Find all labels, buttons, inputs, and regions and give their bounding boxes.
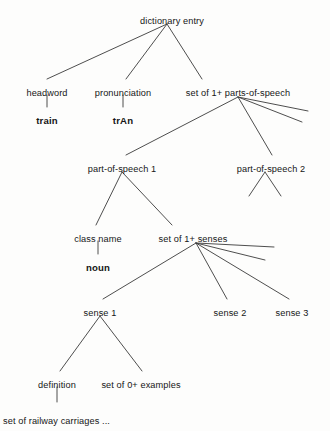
- tree-node-pronunciation: pronunciation: [95, 88, 151, 99]
- tree-diagram: dictionary entryheadwordtrainpronunciati…: [0, 0, 330, 431]
- tree-edge-sense1-to-examples: [100, 316, 142, 371]
- tree-edge-sense1-to-definition: [60, 316, 100, 371]
- tree-node-part-of-speech-1: part-of-speech 1: [88, 164, 157, 175]
- tree-node-set-examples: set of 0+ examples: [101, 380, 180, 391]
- tree-edge-senses-stub-b: [196, 243, 265, 260]
- tree-edge-senses-to-sense1: [103, 243, 196, 299]
- tree-node-class-name-value: noun: [86, 262, 110, 273]
- tree-node-dictionary-entry: dictionary entry: [140, 16, 204, 27]
- tree-edge-entry-to-pronunciation: [126, 24, 167, 79]
- tree-node-definition-value: set of railway carriages ...: [3, 416, 110, 427]
- tree-edge-pos2-branch-left: [249, 172, 265, 196]
- tree-node-class-name: class name: [74, 234, 121, 245]
- tree-edge-senses-to-sense3: [196, 243, 289, 299]
- tree-node-set-senses: set of 1+ senses: [159, 234, 228, 245]
- tree-edge-parts-stub-a: [238, 97, 308, 111]
- tree-edge-entry-to-parts: [167, 24, 202, 79]
- tree-node-sense-3: sense 3: [276, 308, 309, 319]
- tree-edge-pos1-to-class-name: [96, 172, 122, 225]
- tree-node-sense-2: sense 2: [214, 308, 247, 319]
- tree-node-definition: definition: [38, 380, 76, 391]
- tree-edge-senses-to-sense2: [196, 243, 227, 299]
- tree-node-pronunciation-value: trAn: [113, 115, 133, 126]
- tree-node-set-parts-of-speech: set of 1+ parts-of-speech: [186, 88, 290, 99]
- tree-node-sense-1: sense 1: [84, 308, 117, 319]
- tree-edges: [0, 0, 330, 431]
- tree-edge-pos2-branch-right: [265, 172, 281, 196]
- tree-edge-entry-to-headword: [47, 24, 167, 79]
- tree-node-headword: headword: [26, 88, 67, 99]
- tree-edge-pos1-to-senses: [122, 172, 172, 225]
- tree-edge-parts-stub-b: [238, 97, 302, 122]
- tree-node-headword-value: train: [36, 115, 58, 126]
- tree-edge-parts-to-pos1: [126, 97, 238, 155]
- tree-edge-parts-to-pos2: [238, 97, 272, 155]
- tree-node-part-of-speech-2: part-of-speech 2: [237, 164, 306, 175]
